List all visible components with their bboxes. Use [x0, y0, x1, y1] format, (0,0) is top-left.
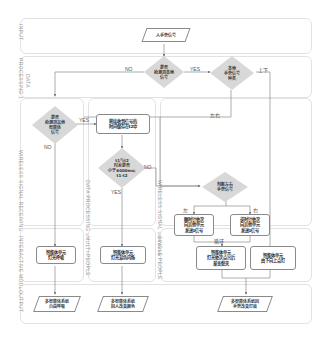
decision-time-difference: t1与t2 时差是否 小于6000ms; t1-t2: [98, 148, 146, 188]
edge-label-yes-top: YES: [190, 66, 200, 72]
output-color-change: 多智能体系统 因人改变颜色: [100, 296, 146, 312]
edge-label-loop: 循环: [214, 237, 224, 244]
output-gesture-effect: 多智能体系统因 手势改变灯效: [220, 296, 270, 312]
edge-label-no-mid: NO: [144, 164, 152, 170]
edge-label-yes-left: YES: [79, 117, 89, 123]
mode-mix-flash: 智能体单元 灯光混色闪烁: [100, 246, 146, 264]
output-free-breath: 多智能体系统 自由呼吸: [36, 296, 78, 312]
edge-label-yes-mid: YES: [111, 189, 121, 195]
process-clockwise-send: 顺时针依次 向其他单元 发送1信号: [174, 214, 214, 236]
decision-detect-local-signal: 是否 检测到本地 信号: [144, 56, 184, 88]
mode-breath-light: 智能体单元 灯光呼吸: [36, 246, 76, 264]
mode-light-on-loop: 智能体单元 灯光依次点亮后 渐变熄灭: [196, 246, 246, 270]
decision-judge-left-right: 判断左右 手势信号: [202, 172, 248, 202]
edge-label-up-down: 上下: [258, 66, 268, 73]
process-counterclockwise-send: 逆时针依次 向其他单元 发送1信号: [230, 214, 270, 236]
edge-label-left: 左: [183, 206, 188, 213]
decision-detect-other-agent: 是否 检测到其他 智能体 信号: [32, 106, 78, 144]
decision-gesture-type: 本地 手势信号 种类: [210, 56, 254, 90]
edge-label-no-top: NO: [125, 66, 133, 72]
edge-label-right: 右: [253, 206, 258, 213]
input-gesture-signal: 人手势信号: [144, 28, 188, 42]
mode-light-up-down: 智能体单元 由下向上点灯: [250, 246, 296, 270]
connector-lines: [0, 0, 317, 342]
process-store-t2: 将接收到信号的 时间储存在t2中: [96, 114, 150, 134]
edge-label-no-left: NO: [44, 144, 52, 150]
edge-label-left-right: 左右: [210, 111, 220, 118]
